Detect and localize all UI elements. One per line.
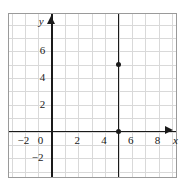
y-axis-tick-label: 2 [40,99,46,110]
gridline-horizontal [9,91,176,92]
coordinate-plane-graph: yx−202468642−2 [0,0,185,188]
y-axis-arrow-icon [47,16,55,24]
gridline-horizontal [9,38,176,39]
x-axis-label: x [173,135,178,146]
gridline-horizontal [9,25,176,26]
x-axis-tick-label: 4 [101,135,107,146]
x-axis-arrow-icon [165,126,173,134]
gridline-horizontal [9,105,176,106]
gridline-horizontal [9,172,176,173]
y-axis-label: y [39,16,44,27]
x-axis [9,131,176,133]
gridline-horizontal [9,65,176,66]
gridline-horizontal [9,118,176,119]
x-axis-tick-label: 8 [155,135,161,146]
gridline-horizontal [9,145,176,146]
y-axis-tick-label: 6 [40,45,46,56]
y-axis [51,14,53,177]
x-axis-tick-label: 0 [38,135,44,146]
x-axis-tick-label: −2 [18,135,30,146]
y-axis-tick-label: 4 [40,72,46,83]
function-line-x-equals-5 [118,14,120,177]
gridline-horizontal [9,51,176,52]
x-axis-tick-label: 6 [128,135,134,146]
gridline-horizontal [9,78,176,79]
y-axis-tick-label: −2 [32,152,44,163]
x-axis-tick-label: 2 [74,135,80,146]
